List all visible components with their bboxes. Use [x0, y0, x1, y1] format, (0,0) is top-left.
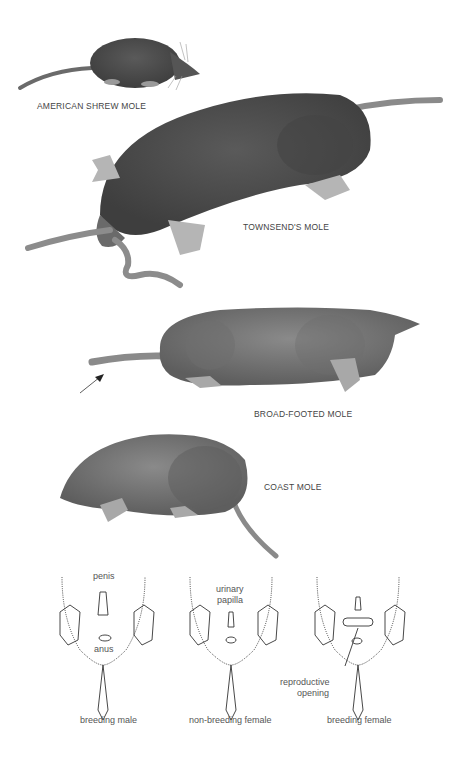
species-label-coast-mole: COAST MOLE [264, 482, 322, 492]
mole-plate: AMERICAN SHREW MOLE TOWNSEND'S MOLE BROA… [0, 0, 454, 766]
annotation-anus: anus [94, 644, 114, 654]
annotation-reproductive: reproductive [280, 677, 330, 687]
ventral-diagram-breeding-female [315, 577, 405, 720]
caption-non-breeding-female: non-breeding female [189, 715, 272, 725]
species-label-townsends-mole: TOWNSEND'S MOLE [243, 222, 329, 232]
townsends-mole-illustration [28, 93, 440, 285]
annotation-opening: opening [297, 688, 329, 698]
caption-breeding-male: breeding male [80, 715, 137, 725]
caption-breeding-female: breeding female [327, 715, 392, 725]
annotation-papilla: papilla [217, 595, 243, 605]
species-label-american-shrew-mole: AMERICAN SHREW MOLE [37, 101, 146, 111]
american-shrew-mole-illustration [20, 38, 200, 90]
coast-mole-illustration [60, 434, 276, 556]
annotation-urinary: urinary [216, 584, 244, 594]
illustrations [0, 0, 454, 766]
broad-footed-mole-illustration [80, 308, 420, 394]
arrow-line [80, 377, 100, 393]
species-label-broad-footed-mole: BROAD-FOOTED MOLE [254, 409, 352, 419]
arrow-head-icon [95, 374, 104, 382]
annotation-penis: penis [93, 571, 115, 581]
